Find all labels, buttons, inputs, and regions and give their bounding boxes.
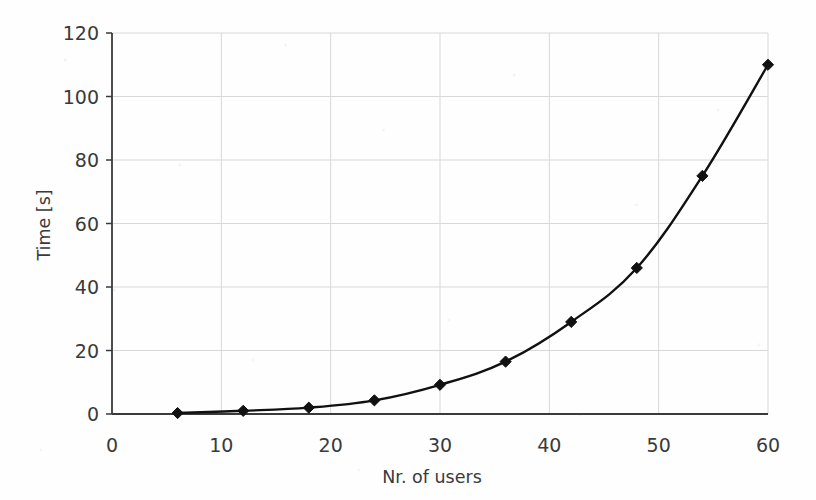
x-tick-label: 40 [537,434,561,456]
y-tick-label: 20 [75,340,99,362]
x-tick-label: 60 [756,434,780,456]
y-axis-title: Time [s] [34,189,54,261]
y-tick-label: 0 [87,403,99,425]
y-axis-tick-labels: 020406080100120 [63,22,99,425]
x-axis-title: Nr. of users [382,467,482,487]
x-tick-label: 30 [428,434,452,456]
data-point-marker [303,402,314,413]
data-point-marker [434,379,445,390]
data-point-marker [762,59,773,70]
x-axis-tick-labels: 0102030405060 [106,434,780,456]
y-tick-label: 40 [75,276,99,298]
y-tick-label: 100 [63,86,99,108]
grid-lines [112,33,768,414]
x-tick-label: 10 [209,434,233,456]
data-point-marker [500,356,511,367]
data-series-line [178,65,768,413]
x-tick-label: 0 [106,434,118,456]
line-chart: 020406080100120 0102030405060 Time [s] N… [0,0,816,500]
y-tick-label: 60 [75,213,99,235]
y-tick-label: 80 [75,149,99,171]
chart-container: 020406080100120 0102030405060 Time [s] N… [0,0,816,500]
data-point-marker [369,395,380,406]
x-tick-label: 50 [647,434,671,456]
y-tick-label: 120 [63,22,99,44]
series-line-time [178,65,768,413]
x-tick-label: 20 [319,434,343,456]
data-point-markers [172,59,774,418]
data-point-marker [172,407,183,418]
